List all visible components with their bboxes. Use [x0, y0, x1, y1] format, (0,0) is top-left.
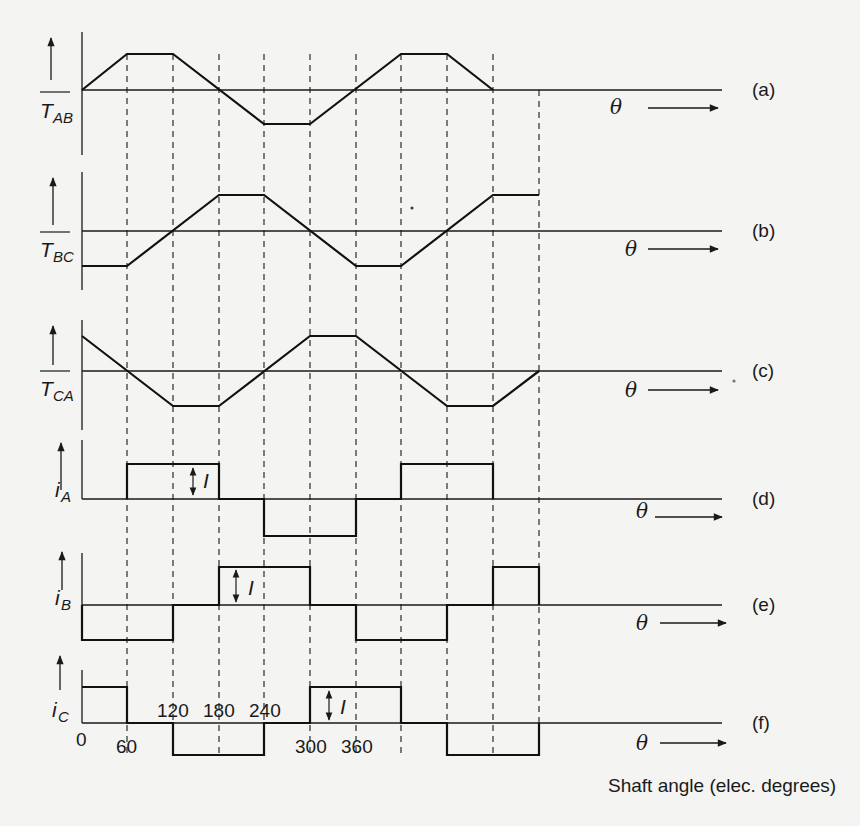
panel-e-ib: i B I θ (e) [55, 552, 775, 640]
panel-b-tbc: T BC θ (b) [40, 172, 775, 290]
theta-label: θ [636, 731, 648, 755]
grid-dashed-lines [127, 54, 539, 755]
panel-tag: (c) [752, 360, 774, 381]
amplitude-label: I [203, 469, 209, 492]
panel-d-ia: i A I θ (d) [55, 440, 775, 536]
panel-tag: (a) [752, 79, 775, 100]
panel-a-tab: T AB θ (a) [40, 32, 775, 155]
theta-label: θ [610, 95, 622, 119]
panel-tag: (d) [752, 488, 775, 509]
theta-label: θ [636, 611, 648, 635]
x-axis-caption: Shaft angle (elec. degrees) [608, 775, 836, 796]
theta-label: θ [625, 378, 637, 402]
amplitude-label: I [248, 576, 254, 599]
subscript: BC [53, 248, 74, 265]
tick-180: 180 [203, 700, 235, 721]
subscript: B [61, 596, 71, 613]
tick-60: 60 [116, 736, 137, 757]
speck [732, 379, 735, 382]
subscript: C [58, 708, 69, 725]
theta-label: θ [636, 499, 648, 523]
tick-0: 0 [76, 729, 87, 750]
subscript: CA [53, 387, 74, 404]
panel-tag: (f) [752, 712, 770, 733]
x-tick-labels: 0 60 120 180 240 300 360 [76, 700, 373, 757]
subscript: AB [52, 109, 73, 126]
subscript: A [60, 488, 71, 505]
tick-360: 360 [341, 736, 373, 757]
panel-tag: (e) [752, 594, 775, 615]
panel-c-tca: T CA θ (c) [40, 320, 774, 430]
tick-240: 240 [249, 700, 281, 721]
amplitude-label: I [340, 695, 346, 718]
speck [411, 207, 414, 210]
tick-120: 120 [157, 700, 189, 721]
theta-label: θ [625, 237, 637, 261]
waveform-diagram: T AB θ (a) T BC θ (b) T CA θ (c) [0, 0, 860, 826]
waveform [82, 54, 493, 124]
tick-300: 300 [295, 736, 327, 757]
panel-tag: (b) [752, 220, 775, 241]
